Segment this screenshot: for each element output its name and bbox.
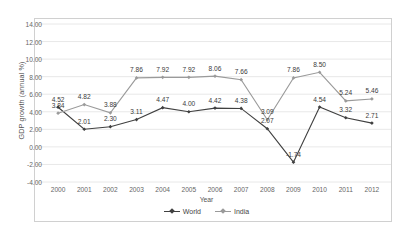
data-label: 2.71 [366,111,379,118]
data-label: 4.54 [313,95,326,102]
data-label: 4.00 [182,100,195,107]
legend-item-india[interactable]: India [215,207,249,215]
legend-marker-icon [164,207,180,215]
data-label: 2.07 [261,117,274,124]
chart-legend: WorldIndia [0,207,413,215]
y-axis-title: GDP growth (annual %) [17,36,26,166]
data-label: 7.92 [156,65,169,72]
data-label: 3.88 [104,101,117,108]
data-label: 4.38 [235,96,248,103]
data-label: 3.84 [52,101,65,108]
legend-marker-icon [215,207,231,215]
legend-label: World [183,208,201,215]
data-point-labels: 4.522.012.303.114.474.004.424.382.07-1.7… [0,0,413,239]
data-label: 8.06 [209,64,222,71]
data-label: 7.86 [287,66,300,73]
data-label: 2.01 [78,117,91,124]
data-label: 3.32 [339,106,352,113]
data-label: -1.74 [286,151,301,158]
legend-label: India [234,208,249,215]
data-label: 4.82 [78,93,91,100]
data-label: 3.11 [130,108,142,115]
data-label: 2.30 [104,115,117,122]
data-label: 7.86 [130,66,143,73]
data-label: 3.09 [261,108,274,115]
data-label: 5.24 [339,89,352,96]
data-label: 4.42 [209,96,222,103]
data-label: 7.92 [182,65,195,72]
gdp-growth-line-chart: 14.0012.0010.008.006.004.002.000.00-2.00… [0,0,413,239]
data-label: 5.46 [366,87,379,94]
legend-item-world[interactable]: World [164,207,201,215]
x-axis-title: Year [0,196,413,203]
data-label: 7.66 [235,68,248,75]
data-label: 8.50 [313,60,326,67]
data-label: 4.47 [156,96,169,103]
